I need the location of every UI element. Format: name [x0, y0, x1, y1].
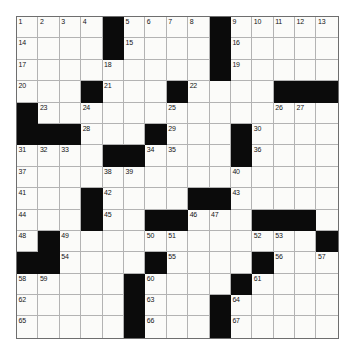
letter-cell[interactable]: 37: [17, 167, 38, 188]
letter-cell[interactable]: 51: [167, 231, 188, 252]
letter-cell[interactable]: [252, 81, 273, 102]
letter-cell[interactable]: [38, 316, 59, 337]
letter-cell[interactable]: [60, 103, 81, 124]
letter-cell[interactable]: 17: [17, 60, 38, 81]
letter-cell[interactable]: [231, 231, 252, 252]
letter-cell[interactable]: 25: [167, 103, 188, 124]
letter-cell[interactable]: 52: [252, 231, 273, 252]
letter-cell[interactable]: [81, 231, 102, 252]
letter-cell[interactable]: [103, 252, 124, 273]
letter-cell[interactable]: [103, 103, 124, 124]
letter-cell[interactable]: [167, 188, 188, 209]
letter-cell[interactable]: [295, 60, 316, 81]
letter-cell[interactable]: [38, 167, 59, 188]
letter-cell[interactable]: 62: [17, 295, 38, 316]
letter-cell[interactable]: [316, 167, 337, 188]
letter-cell[interactable]: 41: [17, 188, 38, 209]
letter-cell[interactable]: [81, 316, 102, 337]
letter-cell[interactable]: [231, 103, 252, 124]
letter-cell[interactable]: 47: [210, 210, 231, 231]
letter-cell[interactable]: 3: [60, 17, 81, 38]
letter-cell[interactable]: 27: [295, 103, 316, 124]
letter-cell[interactable]: [295, 124, 316, 145]
letter-cell[interactable]: [38, 210, 59, 231]
letter-cell[interactable]: [38, 188, 59, 209]
letter-cell[interactable]: 36: [252, 145, 273, 166]
letter-cell[interactable]: 50: [145, 231, 166, 252]
letter-cell[interactable]: [274, 60, 295, 81]
letter-cell[interactable]: [145, 81, 166, 102]
letter-cell[interactable]: [295, 316, 316, 337]
letter-cell[interactable]: 7: [167, 17, 188, 38]
letter-cell[interactable]: [295, 38, 316, 59]
letter-cell[interactable]: [103, 124, 124, 145]
letter-cell[interactable]: [188, 167, 209, 188]
letter-cell[interactable]: [188, 60, 209, 81]
letter-cell[interactable]: [38, 81, 59, 102]
letter-cell[interactable]: [145, 38, 166, 59]
letter-cell[interactable]: [81, 252, 102, 273]
letter-cell[interactable]: 1: [17, 17, 38, 38]
letter-cell[interactable]: 23: [38, 103, 59, 124]
letter-cell[interactable]: 49: [60, 231, 81, 252]
letter-cell[interactable]: 12: [295, 17, 316, 38]
letter-cell[interactable]: 66: [145, 316, 166, 337]
letter-cell[interactable]: 20: [17, 81, 38, 102]
letter-cell[interactable]: [124, 210, 145, 231]
letter-cell[interactable]: [210, 274, 231, 295]
letter-cell[interactable]: [188, 103, 209, 124]
letter-cell[interactable]: [38, 38, 59, 59]
letter-cell[interactable]: [145, 188, 166, 209]
letter-cell[interactable]: [316, 145, 337, 166]
letter-cell[interactable]: 54: [60, 252, 81, 273]
letter-cell[interactable]: [274, 274, 295, 295]
letter-cell[interactable]: 2: [38, 17, 59, 38]
letter-cell[interactable]: 63: [145, 295, 166, 316]
letter-cell[interactable]: 61: [252, 274, 273, 295]
letter-cell[interactable]: 11: [274, 17, 295, 38]
letter-cell[interactable]: [188, 316, 209, 337]
letter-cell[interactable]: [167, 316, 188, 337]
letter-cell[interactable]: [295, 145, 316, 166]
letter-cell[interactable]: 35: [167, 145, 188, 166]
letter-cell[interactable]: [188, 295, 209, 316]
letter-cell[interactable]: [145, 60, 166, 81]
letter-cell[interactable]: [60, 38, 81, 59]
letter-cell[interactable]: [316, 210, 337, 231]
letter-cell[interactable]: [274, 295, 295, 316]
letter-cell[interactable]: [231, 81, 252, 102]
letter-cell[interactable]: [81, 274, 102, 295]
letter-cell[interactable]: [145, 167, 166, 188]
letter-cell[interactable]: 48: [17, 231, 38, 252]
letter-cell[interactable]: [103, 295, 124, 316]
letter-cell[interactable]: [316, 188, 337, 209]
letter-cell[interactable]: 24: [81, 103, 102, 124]
letter-cell[interactable]: 43: [231, 188, 252, 209]
letter-cell[interactable]: [188, 38, 209, 59]
letter-cell[interactable]: 45: [103, 210, 124, 231]
letter-cell[interactable]: 5: [124, 17, 145, 38]
letter-cell[interactable]: [188, 124, 209, 145]
letter-cell[interactable]: 14: [17, 38, 38, 59]
letter-cell[interactable]: [188, 145, 209, 166]
letter-cell[interactable]: [60, 60, 81, 81]
letter-cell[interactable]: [252, 167, 273, 188]
letter-cell[interactable]: 13: [316, 17, 337, 38]
letter-cell[interactable]: [316, 60, 337, 81]
letter-cell[interactable]: [167, 38, 188, 59]
letter-cell[interactable]: [274, 188, 295, 209]
letter-cell[interactable]: [295, 295, 316, 316]
letter-cell[interactable]: [252, 295, 273, 316]
letter-cell[interactable]: [103, 316, 124, 337]
letter-cell[interactable]: [274, 145, 295, 166]
letter-cell[interactable]: [60, 316, 81, 337]
letter-cell[interactable]: [103, 274, 124, 295]
letter-cell[interactable]: [124, 231, 145, 252]
letter-cell[interactable]: [81, 38, 102, 59]
letter-cell[interactable]: [274, 38, 295, 59]
letter-cell[interactable]: [295, 252, 316, 273]
letter-cell[interactable]: [124, 124, 145, 145]
letter-cell[interactable]: [274, 167, 295, 188]
letter-cell[interactable]: [210, 231, 231, 252]
letter-cell[interactable]: [60, 188, 81, 209]
